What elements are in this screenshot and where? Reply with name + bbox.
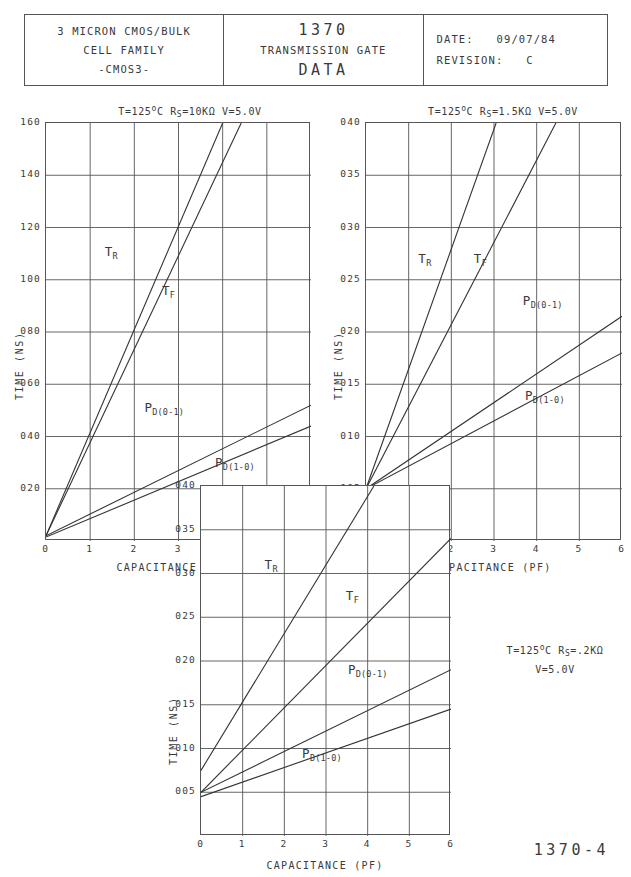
chart-3-ytick: 030 xyxy=(158,567,196,578)
chart-1-ytick: 100 xyxy=(3,273,41,284)
chart-1-label-pd01: PD(0-1) xyxy=(144,400,184,417)
page-number: 1370-4 xyxy=(534,841,609,859)
cell-family-line-3: -CMOS3- xyxy=(98,60,150,79)
chart-2-xtick: 3 xyxy=(483,543,503,554)
chart-3-ytick: 015 xyxy=(158,698,196,709)
chart-1-ytick: 060 xyxy=(3,377,41,388)
chart-1-xtick: 2 xyxy=(123,543,143,554)
chart-3-annotation-line-1: T=125oC RS=.2KΩ xyxy=(485,640,625,662)
chart-3-ytick: 025 xyxy=(158,610,196,621)
chart-3-label-tf: TF xyxy=(346,588,359,605)
chart-3-xtick: 3 xyxy=(315,838,335,849)
chart-1-label-tf: TF xyxy=(162,283,175,300)
chart-2-label-tr: TR xyxy=(418,251,431,268)
chart-3-label-pd10: PD(1-0) xyxy=(302,746,342,763)
chart-2-ylabel: TIME (NS) xyxy=(333,331,344,400)
chart-2-ytick: 010 xyxy=(323,430,361,441)
chart-2-ytick: 015 xyxy=(323,377,361,388)
chart-3-ytick: 020 xyxy=(158,654,196,665)
chart-2-ytick: 035 xyxy=(323,168,361,179)
chart-3-label-pd01: PD(0-1) xyxy=(348,662,388,679)
revision-row: REVISION: C xyxy=(437,50,607,71)
cell-family-line-1: 3 MICRON CMOS/BULK xyxy=(57,22,191,41)
chart-1-ytick: 140 xyxy=(3,168,41,179)
chart-3-curves xyxy=(201,486,451,836)
chart-3-annotation: T=125oC RS=.2KΩ V=5.0V xyxy=(485,640,625,678)
chart-3-ytick: 035 xyxy=(158,523,196,534)
chart-3-ytick: 010 xyxy=(158,742,196,753)
chart-3-xtick: 1 xyxy=(232,838,252,849)
title-block-cell-part: 1370 TRANSMISSION GATE DATA xyxy=(224,15,423,85)
cell-family-line-2: CELL FAMILY xyxy=(83,41,165,60)
chart-3-ytick: 040 xyxy=(158,479,196,490)
chart-1-xtick: 0 xyxy=(35,543,55,554)
chart-2-label-pd01: PD(0-1) xyxy=(523,293,563,310)
chart-2-label-tf: TF xyxy=(474,251,487,268)
chart-3-plot-area xyxy=(200,485,450,835)
chart-2-xtick: 5 xyxy=(568,543,588,554)
chart-2-ytick: 020 xyxy=(323,325,361,336)
chart-1-title: T=125oC RS=10KΩ V=5.0V xyxy=(60,104,320,119)
chart-rs-1p5k: T=125oC RS=1.5KΩ V=5.0V TIME (NS) CAPACI… xyxy=(320,100,631,490)
chart-rs-10k: T=125oC RS=10KΩ V=5.0V TIME (NS) CAPACIT… xyxy=(0,100,320,490)
chart-3-xtick: 6 xyxy=(440,838,460,849)
date-value: 09/07/84 xyxy=(497,33,556,45)
chart-2-label-pd10: PD(1-0) xyxy=(525,388,565,405)
chart-3-label-tr: TR xyxy=(265,557,278,574)
chart-3-xtick: 5 xyxy=(398,838,418,849)
date-label: DATE: xyxy=(437,33,474,45)
chart-2-xtick: 6 xyxy=(611,543,631,554)
part-subtitle: TRANSMISSION GATE xyxy=(260,41,386,60)
revision-value: C xyxy=(526,54,533,66)
chart-3-annotation-line-2: V=5.0V xyxy=(485,662,625,678)
chart-1-label-tr: TR xyxy=(105,244,118,261)
chart-3-xlabel: CAPACITANCE (PF) xyxy=(200,860,450,871)
chart-2-xtick: 4 xyxy=(526,543,546,554)
part-number: 1370 xyxy=(298,20,348,41)
title-block-cell-family: 3 MICRON CMOS/BULK CELL FAMILY -CMOS3- xyxy=(25,15,224,85)
date-row: DATE: 09/07/84 xyxy=(437,29,607,50)
chart-rs-0p2k: TIME (NS) CAPACITANCE (PF) 0050100150200… xyxy=(155,475,475,865)
chart-1-xtick: 1 xyxy=(79,543,99,554)
chart-3-ytick: 005 xyxy=(158,785,196,796)
chart-1-ytick: 080 xyxy=(3,325,41,336)
title-block: 3 MICRON CMOS/BULK CELL FAMILY -CMOS3- 1… xyxy=(24,14,608,86)
chart-2-ytick: 030 xyxy=(323,221,361,232)
chart-2-title: T=125oC RS=1.5KΩ V=5.0V xyxy=(375,104,631,119)
chart-2-ytick: 040 xyxy=(323,116,361,127)
chart-1-label-pd10: PD(1-0) xyxy=(215,455,255,472)
title-block-cell-revision: DATE: 09/07/84 REVISION: C xyxy=(424,15,607,85)
sheet-type: DATA xyxy=(298,60,348,81)
chart-3-xtick: 0 xyxy=(190,838,210,849)
chart-1-ylabel: TIME (NS) xyxy=(14,331,25,400)
chart-1-ytick: 160 xyxy=(3,116,41,127)
chart-1-ytick: 020 xyxy=(3,482,41,493)
chart-1-ytick: 040 xyxy=(3,430,41,441)
chart-3-xtick: 4 xyxy=(357,838,377,849)
chart-2-ytick: 025 xyxy=(323,273,361,284)
chart-1-ytick: 120 xyxy=(3,221,41,232)
revision-label: REVISION: xyxy=(437,54,504,66)
chart-3-xtick: 2 xyxy=(273,838,293,849)
